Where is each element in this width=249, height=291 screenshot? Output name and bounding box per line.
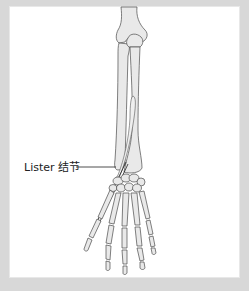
middle-finger-bones [122,193,129,275]
radius-head [127,34,143,47]
carpal-bones [109,174,145,192]
forearm-hand-illustration [0,0,249,291]
lister-tubercle-label: Lister 结节 [24,161,80,174]
